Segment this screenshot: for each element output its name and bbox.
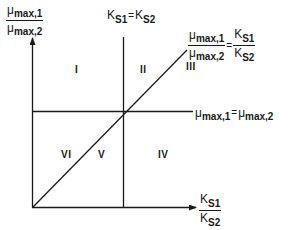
subscript: max,1	[202, 111, 230, 122]
ks-equal-label: KS1 = KS2	[107, 6, 155, 25]
mu-symbol: μ	[189, 46, 196, 60]
region-v-label: V	[98, 150, 105, 160]
ratio-equal-diagonal	[33, 50, 187, 207]
numerator: μmax,1	[188, 29, 225, 44]
k-symbol: K	[200, 192, 208, 206]
equals-sign: =	[128, 10, 134, 21]
region-ii-label: II	[140, 65, 147, 75]
region-iv-label: IV	[158, 150, 168, 160]
subscript: S2	[242, 52, 254, 63]
mumax2-term: μmax,2	[238, 103, 273, 122]
mu-symbol: μ	[195, 106, 202, 120]
y-axis-denominator: μmax,2	[6, 22, 43, 37]
subscript: S1	[208, 198, 220, 209]
denominator: μmax,2	[188, 47, 225, 62]
subscript: max,1	[196, 33, 224, 44]
mumax-equal-label: μmax,1 = μmax,2	[195, 103, 273, 122]
equals-sign: =	[231, 107, 237, 118]
mumax1-term: μmax,1	[195, 103, 230, 122]
mu-symbol: μ	[7, 3, 14, 17]
subscript: max,2	[196, 51, 224, 62]
region-vi-label: VI	[61, 150, 71, 160]
region-i-label: I	[75, 65, 78, 75]
mumax-ratio: μmax,1 μmax,2	[188, 29, 225, 62]
mu-symbol: μ	[7, 21, 14, 35]
subscript: S2	[208, 217, 220, 228]
y-axis-label: μmax,1 μmax,2	[6, 4, 43, 37]
k-symbol: K	[200, 211, 208, 225]
numerator: KS1	[233, 28, 255, 44]
x-axis-label: KS1 KS2	[199, 193, 221, 228]
subscript: S1	[115, 14, 127, 25]
denominator: KS2	[199, 212, 221, 228]
numerator: KS1	[199, 193, 221, 209]
subscript: S1	[242, 33, 254, 44]
subscript: max,2	[14, 26, 42, 37]
k-symbol: K	[107, 8, 115, 22]
subscript: S2	[143, 14, 155, 25]
mu-symbol: μ	[189, 28, 196, 42]
ks1-term: KS1	[107, 6, 127, 25]
region-iii-label: III	[186, 62, 196, 72]
ks2-term: KS2	[135, 6, 155, 25]
k-symbol: K	[234, 46, 242, 60]
subscript: max,2	[245, 111, 273, 122]
y-axis-numerator: μmax,1	[6, 4, 43, 19]
mu-symbol: μ	[238, 106, 245, 120]
subscript: max,1	[14, 8, 42, 19]
ks-ratio: KS1 KS2	[233, 28, 255, 63]
equals-sign: =	[226, 40, 232, 51]
denominator: KS2	[233, 47, 255, 63]
k-symbol: K	[135, 8, 143, 22]
k-symbol: K	[234, 27, 242, 41]
diagonal-label: μmax,1 μmax,2 = KS1 KS2	[188, 28, 255, 63]
